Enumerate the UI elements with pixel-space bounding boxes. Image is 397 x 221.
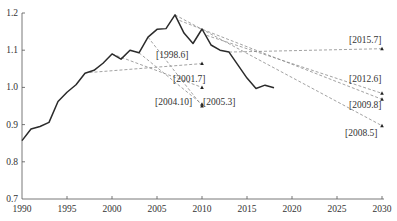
y-tick-label: 0.8 [6, 157, 18, 167]
forecast-line [148, 37, 202, 106]
forecast-endpoint-marker [380, 124, 384, 128]
y-tick-label: 0.7 [6, 194, 18, 204]
x-tick-label: 1995 [58, 204, 77, 214]
x-tick-label: 2010 [193, 204, 212, 214]
x-tick-label: 2000 [103, 204, 122, 214]
forecast-label-2008-5: [2008.5] [345, 128, 377, 138]
forecast-label-2001-7: [2001.7] [173, 74, 205, 84]
forecast-label-2005-3: [2005.3] [203, 97, 235, 107]
forecast-label-1998-6: [1998.6] [156, 50, 188, 60]
forecast-label-2012-6: [2012.6] [349, 74, 381, 84]
x-tick-label: 2025 [328, 204, 347, 214]
forecast-label-2015-7: [2015.7] [349, 35, 381, 45]
actual-line [22, 15, 274, 141]
y-tick-label: 1.2 [6, 8, 18, 18]
chart-svg: 1.2 1.1 1.0 0.9 0.8 0.7 1990 1995 2000 2… [0, 0, 397, 221]
y-tick-label: 0.9 [6, 120, 18, 130]
x-tick-label: 2005 [148, 204, 167, 214]
line-chart: 1.2 1.1 1.0 0.9 0.8 0.7 1990 1995 2000 2… [0, 0, 397, 221]
forecast-endpoint-marker [380, 91, 384, 95]
x-tick-label: 2030 [373, 204, 392, 214]
actual-series [22, 15, 274, 141]
forecast-label-2009-8: [2009.8] [349, 100, 381, 110]
forecast-lines [90, 15, 384, 127]
x-tick-label: 2020 [283, 204, 302, 214]
y-tick-label: 1.1 [6, 45, 18, 55]
x-tick-label: 2015 [238, 204, 257, 214]
forecast-line [90, 64, 203, 73]
forecast-line [180, 20, 383, 99]
x-tick-label: 1990 [13, 204, 32, 214]
y-tick-label: 1.0 [6, 82, 18, 92]
forecast-label-2004-10: [2004.10] [155, 97, 192, 107]
forecast-endpoint-marker [200, 85, 204, 89]
